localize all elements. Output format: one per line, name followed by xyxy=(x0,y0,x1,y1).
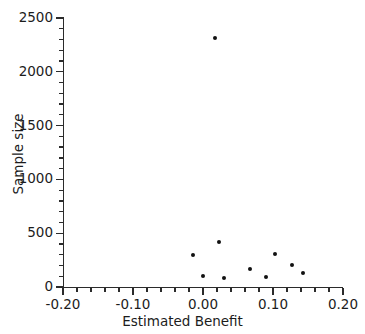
x-axis-minor-tick xyxy=(118,288,119,292)
y-axis-line xyxy=(63,17,64,288)
y-axis-minor-tick xyxy=(59,157,63,158)
x-axis-tick-label: 0.00 xyxy=(173,296,233,312)
x-axis-minor-tick xyxy=(76,288,77,292)
y-axis-title: Sample size xyxy=(10,94,26,214)
y-axis-minor-tick xyxy=(59,200,63,201)
y-axis-tick-label: 1500 xyxy=(0,117,53,133)
x-axis-major-tick xyxy=(342,288,343,295)
y-axis-minor-tick xyxy=(59,190,63,191)
y-axis-minor-tick xyxy=(59,50,63,51)
y-axis-minor-tick xyxy=(59,114,63,115)
x-axis-minor-tick xyxy=(300,288,301,292)
x-axis-major-tick xyxy=(62,288,63,295)
x-axis-minor-tick xyxy=(188,288,189,292)
y-axis-major-tick xyxy=(56,17,63,18)
x-axis-tick-label: 0.10 xyxy=(243,296,303,312)
x-axis-major-tick xyxy=(132,288,133,295)
x-axis-minor-tick xyxy=(244,288,245,292)
data-point xyxy=(290,263,295,268)
y-axis-minor-tick xyxy=(59,243,63,244)
data-point xyxy=(217,240,222,245)
data-point xyxy=(213,36,218,41)
y-axis-tick-label: 2000 xyxy=(0,63,53,79)
x-axis-minor-tick xyxy=(90,288,91,292)
y-axis-minor-tick xyxy=(59,93,63,94)
y-axis-major-tick xyxy=(56,71,63,72)
y-axis-minor-tick xyxy=(59,39,63,40)
y-axis-minor-tick xyxy=(59,222,63,223)
y-axis-major-tick xyxy=(56,125,63,126)
y-axis-major-tick xyxy=(56,233,63,234)
x-axis-minor-tick xyxy=(286,288,287,292)
data-point xyxy=(222,276,227,281)
y-axis-minor-tick xyxy=(59,168,63,169)
x-axis-minor-tick xyxy=(230,288,231,292)
x-axis-tick-label: -0.20 xyxy=(33,296,93,312)
x-axis-minor-tick xyxy=(104,288,105,292)
y-axis-minor-tick xyxy=(59,211,63,212)
y-axis-tick-label: 2500 xyxy=(0,9,53,25)
x-axis-title: Estimated Benefit xyxy=(0,313,365,329)
x-axis-minor-tick xyxy=(216,288,217,292)
x-axis-tick-label: -0.10 xyxy=(103,296,163,312)
data-point xyxy=(248,267,253,272)
y-axis-minor-tick xyxy=(59,136,63,137)
y-axis-tick-label: 500 xyxy=(0,224,53,240)
y-axis-tick-label: 0 xyxy=(0,278,53,294)
x-axis-minor-tick xyxy=(314,288,315,292)
data-point xyxy=(301,271,306,276)
x-axis-minor-tick xyxy=(174,288,175,292)
y-axis-tick-label: 1000 xyxy=(0,170,53,186)
y-axis-minor-tick xyxy=(59,60,63,61)
x-axis-minor-tick xyxy=(160,288,161,292)
y-axis-minor-tick xyxy=(59,265,63,266)
scatter-plot-figure: 05001000150020002500 -0.20-0.100.000.100… xyxy=(0,0,365,334)
x-axis-minor-tick xyxy=(146,288,147,292)
x-axis-minor-tick xyxy=(258,288,259,292)
y-axis-minor-tick xyxy=(59,103,63,104)
y-axis-minor-tick xyxy=(59,146,63,147)
y-axis-minor-tick xyxy=(59,28,63,29)
data-point xyxy=(264,275,269,280)
data-point xyxy=(191,253,196,258)
y-axis-major-tick xyxy=(56,179,63,180)
x-axis-tick-label: 0.20 xyxy=(313,296,365,312)
data-point xyxy=(273,252,278,257)
y-axis-minor-tick xyxy=(59,254,63,255)
data-point xyxy=(201,274,206,279)
y-axis-minor-tick xyxy=(59,82,63,83)
x-axis-major-tick xyxy=(202,288,203,295)
x-axis-minor-tick xyxy=(328,288,329,292)
y-axis-minor-tick xyxy=(59,276,63,277)
x-axis-major-tick xyxy=(272,288,273,295)
